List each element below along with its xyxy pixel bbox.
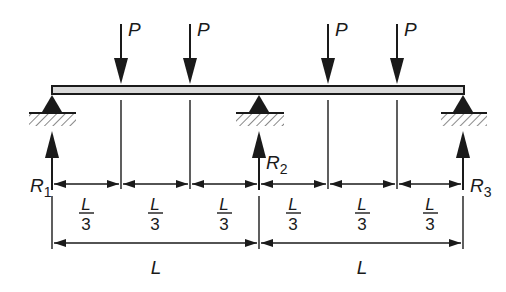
segment-label-1: L 3 [79,195,94,234]
reaction-label: R3 [470,175,492,200]
span-label-1: L [151,257,162,278]
down-arrow-icon [183,58,197,84]
beam [52,86,464,94]
svg-text:3: 3 [357,215,366,234]
up-arrow-icon [456,131,470,158]
load-label: P [197,19,210,40]
pin-support-icon [42,95,62,112]
reaction-3: R3 [456,131,492,200]
down-arrow-icon [390,58,404,84]
reaction-label: R1 [30,175,52,200]
beam-diagram: P P P P R1 R2 [0,0,506,292]
down-arrow-icon [321,58,335,84]
down-arrow-icon [114,58,128,84]
svg-text:L: L [425,195,434,214]
segment-label-2: L 3 [148,195,163,234]
up-arrow-icon [252,131,266,158]
segment-label-4: L 3 [286,195,301,234]
load-2: P [183,19,210,84]
load-1: P [114,19,141,84]
load-4: P [390,19,417,84]
support-2 [236,95,284,126]
segment-label-3: L 3 [217,195,232,234]
svg-text:3: 3 [81,215,90,234]
pin-support-icon [453,95,473,112]
load-label: P [128,19,141,40]
segment-label-5: L 3 [355,195,370,234]
reaction-label: R2 [266,152,288,177]
svg-text:L: L [219,195,228,214]
support-1 [29,95,76,126]
svg-text:L: L [81,195,90,214]
segment-dimensions [54,180,461,188]
reaction-1: R1 [30,131,59,200]
span-label-2: L [357,257,368,278]
svg-text:3: 3 [150,215,159,234]
up-arrow-icon [45,131,59,158]
span-dimensions [54,239,461,247]
load-label: P [404,19,417,40]
svg-text:L: L [288,195,297,214]
pin-support-icon [249,95,269,112]
svg-text:3: 3 [288,215,297,234]
svg-text:3: 3 [425,215,434,234]
svg-text:L: L [150,195,159,214]
segment-label-6: L 3 [423,195,438,234]
load-3: P [321,19,348,84]
svg-text:3: 3 [219,215,228,234]
svg-text:L: L [357,195,366,214]
load-label: P [335,19,348,40]
support-3 [441,95,487,126]
